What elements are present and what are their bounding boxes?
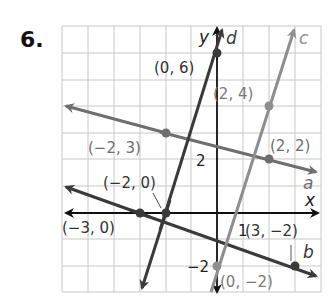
point-n3-0 <box>136 209 145 218</box>
point-0-6 <box>213 49 222 58</box>
tick-y-2: 2 <box>196 152 206 170</box>
point-n2-0 <box>162 209 171 218</box>
tick-y-neg2: −2 <box>187 258 209 276</box>
label-3-n2: (3, −2) <box>245 222 298 240</box>
line-label-c: c <box>299 28 309 48</box>
label-n2-0: (−2, 0) <box>103 174 156 192</box>
label-n2-3: (−2, 3) <box>88 139 141 157</box>
line-a <box>66 106 170 134</box>
line-label-b: b <box>303 242 314 262</box>
point-0-n2 <box>213 262 222 271</box>
label-n3-0: (−3, 0) <box>62 219 115 237</box>
point-3-n2 <box>291 262 300 271</box>
line-label-a: a <box>303 173 313 193</box>
label-2-2: (2, 2) <box>270 137 310 155</box>
label-2-4: (2, 4) <box>213 85 253 103</box>
point-2-4 <box>265 102 274 111</box>
point-2-2 <box>265 155 274 164</box>
point-n2-3 <box>162 129 171 138</box>
label-0-6: (0, 6) <box>154 59 194 77</box>
coordinate-graph: y x 2 1 −2 d c a b (0, 6) (2, 4) (−2, 3)… <box>0 0 334 305</box>
y-axis-label: y <box>198 27 210 47</box>
label-0-n2: (0, −2) <box>220 273 273 291</box>
x-axis-label: x <box>304 190 316 210</box>
line-label-d: d <box>226 28 237 48</box>
leader-n2-0 <box>153 193 161 208</box>
